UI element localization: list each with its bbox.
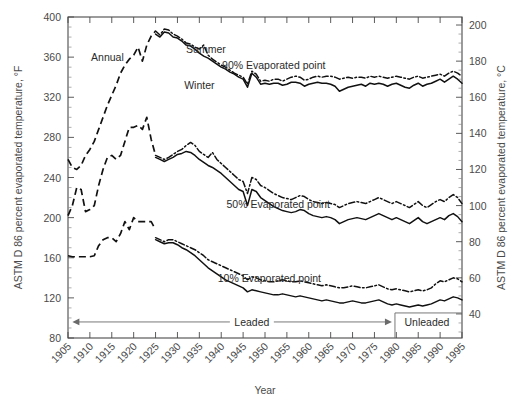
y-tick-label-left: 400 <box>43 11 61 23</box>
chart-annotation: Summer <box>186 43 226 55</box>
y-tick-label-left: 120 <box>43 292 61 304</box>
y-tick-label-left: 200 <box>43 212 61 224</box>
evaporation-temperature-line-chart: 80120160200240280320360400 4060801001201… <box>0 0 521 403</box>
chart-annotation: 10% Evaporated point <box>218 272 321 284</box>
y-tick-label-right: 120 <box>469 163 487 175</box>
unleaded-era-label: Unleaded <box>405 316 450 328</box>
y-tick-label-left: 160 <box>43 252 61 264</box>
y-tick-label-right: 180 <box>469 55 487 67</box>
y-tick-label-right: 200 <box>469 19 487 31</box>
y-axis-right-title: ASTM D 86 percent evaporated temperature… <box>495 65 507 290</box>
y-tick-label-left: 240 <box>43 172 61 184</box>
y-axis-left-title: ASTM D 86 percent evaporated temperature… <box>12 66 24 290</box>
y-tick-label-right: 80 <box>469 236 481 248</box>
y-tick-label-right: 140 <box>469 127 487 139</box>
y-tick-label-left: 320 <box>43 91 61 103</box>
chart-annotation: Winter <box>184 79 215 91</box>
y-tick-label-right: 60 <box>469 272 481 284</box>
chart-figure: 80120160200240280320360400 4060801001201… <box>0 0 521 403</box>
y-tick-label-right: 160 <box>469 91 487 103</box>
y-tick-label-left: 80 <box>49 332 61 344</box>
leaded-era-label: Leaded <box>234 316 269 328</box>
x-axis-title: Year <box>254 384 276 396</box>
y-tick-label-right: 100 <box>469 200 487 212</box>
y-tick-label-right: 40 <box>469 308 481 320</box>
chart-annotation: Annual <box>91 51 124 63</box>
y-tick-label-left: 280 <box>43 131 61 143</box>
chart-annotation: 90% Evaporated point <box>222 59 325 71</box>
chart-annotation: 50% Evaporated point <box>226 198 329 210</box>
y-tick-label-left: 360 <box>43 51 61 63</box>
